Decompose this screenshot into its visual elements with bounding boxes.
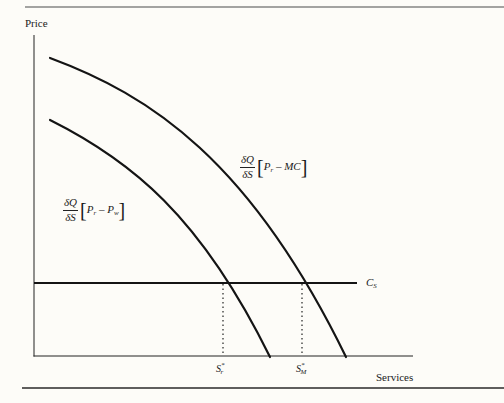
inner-curve-label: δQ δS [Pr – Pw]	[63, 197, 125, 223]
left-bracket: [	[80, 199, 87, 221]
outer-derivative-fraction: δQ δS	[240, 154, 255, 180]
left-bracket: [	[257, 156, 264, 178]
expr-right: P	[107, 203, 114, 215]
cost-label-sub: S	[373, 282, 377, 290]
x-marker-sr: S*r	[216, 362, 223, 376]
inner-bracket-expression: [Pr – Pw]	[80, 200, 125, 220]
fraction-denominator: δS	[64, 211, 77, 224]
expr-operator: –	[273, 160, 284, 172]
expr-operator: –	[96, 203, 107, 215]
inner-derivative-fraction: δQ δS	[63, 197, 78, 223]
expr-right: MC	[284, 160, 301, 172]
inner-demand-curve	[50, 120, 270, 357]
economic-diagram: Price Services δQ δS [Pr – MC] δQ δS [Pr…	[0, 0, 504, 403]
outer-curve-label: δQ δS [Pr – MC]	[240, 154, 307, 180]
marker-sub: M	[301, 368, 307, 376]
fraction-numerator: δQ	[240, 154, 255, 168]
fraction-numerator: δQ	[63, 197, 78, 211]
cost-line-label: CS	[366, 277, 377, 290]
marker-sub: r	[221, 368, 224, 376]
outer-bracket-expression: [Pr – MC]	[257, 157, 307, 177]
fraction-denominator: δS	[241, 168, 254, 181]
right-bracket: ]	[301, 156, 308, 178]
x-marker-sm: S*M	[296, 362, 306, 376]
x-axis-label: Services	[376, 372, 413, 383]
y-axis-label: Price	[25, 18, 48, 29]
right-bracket: ]	[119, 199, 126, 221]
